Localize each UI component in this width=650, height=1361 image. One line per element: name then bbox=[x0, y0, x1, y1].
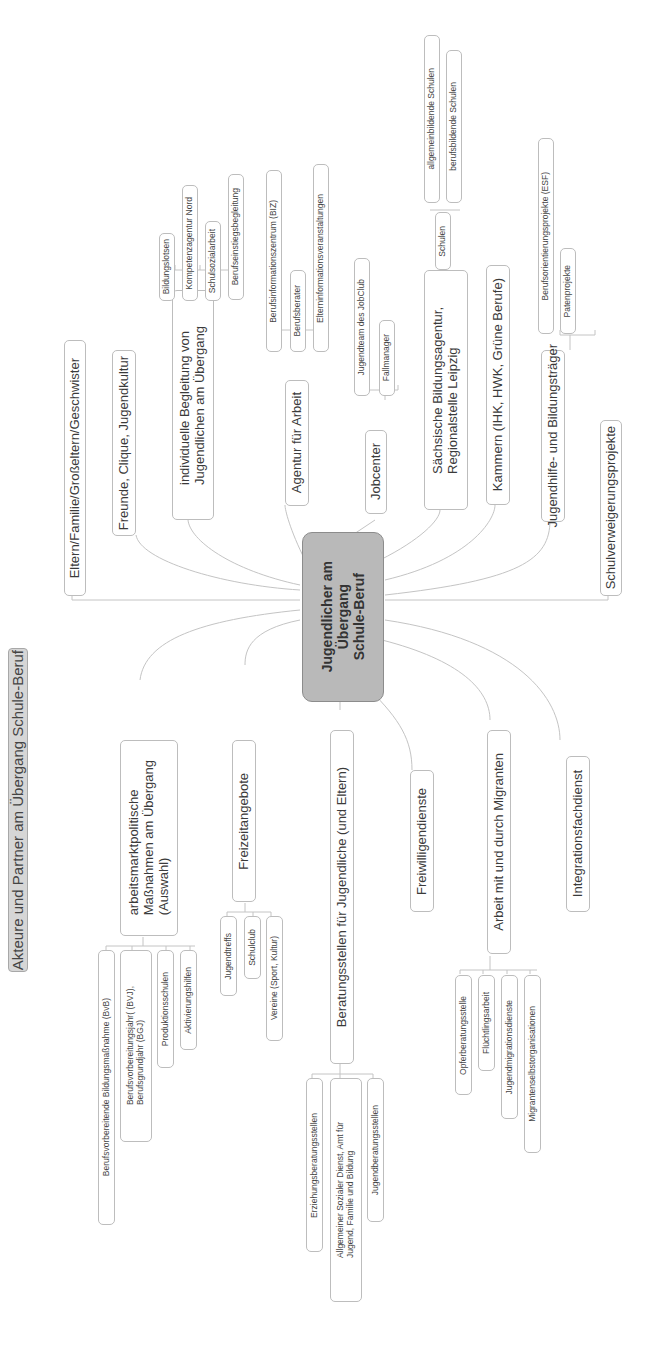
leaf-allgemeinbildende-schulen: allgemeinbildende Schulen bbox=[424, 35, 440, 203]
branch-saechsische-bildungsagentur: Sächsische Bildungsagentur, Regionalstel… bbox=[424, 270, 468, 510]
branch-freunde: Freunde, Clique, Jugendkultur bbox=[112, 350, 136, 536]
leaf-berufsorientierungsprojekte: Berufsorientierungsprojekte (ESF) bbox=[538, 138, 554, 334]
branch-jobcenter: Jobcenter bbox=[365, 430, 387, 514]
branch-arbeitsmarktpolitische-massnahmen: arbeitsmarktpolitische Maßnahmen am Über… bbox=[120, 740, 178, 936]
leaf-biz: Berufsinformationszentrum (BIZ) bbox=[266, 170, 282, 352]
leaf-vereine: Vereine (Sport, Kultur) bbox=[266, 916, 283, 1041]
branch-arbeit-mit-migranten: Arbeit mit und durch Migranten bbox=[487, 730, 511, 954]
leaf-migrantenselbstorganisationen: Migrantenselbstorganisationen bbox=[524, 975, 541, 1153]
leaf-patenprojekte: Patenprojekte bbox=[560, 248, 576, 334]
leaf-jugendtreffs: Jugendtreffs bbox=[220, 916, 237, 996]
leaf-bildungslotsen: Bildungslotsen bbox=[159, 233, 175, 301]
leaf-bvj-bgj: Berufsvorbereitungsjahr( (BVJ), Berufsgr… bbox=[120, 950, 152, 1142]
leaf-schulsozialarbeit: Schulsozialarbeit bbox=[205, 221, 221, 301]
leaf-erziehungsberatungsstellen: Erziehungsberatungsstellen bbox=[306, 1078, 323, 1252]
leaf-opferberatungsstelle: Opferberatungsstelle bbox=[455, 975, 472, 1095]
branch-freiwilligendienste: Freiwilligendienste bbox=[410, 770, 434, 912]
leaf-schulclub: Schulclub bbox=[244, 916, 261, 979]
branch-integrationsfachdienst: Integrationsfachdienst bbox=[566, 756, 590, 912]
leaf-fluechtlingsarbeit: Flüchtlingsarbeit bbox=[478, 975, 495, 1071]
center-node: Jugendlicher am Übergang Schule-Beruf bbox=[302, 532, 384, 702]
branch-schulverweigerungsprojekte: Schulverweigerungsprojekte bbox=[600, 420, 622, 596]
diagram-title: Akteure und Partner am Übergang Schule-B… bbox=[8, 648, 28, 972]
leaf-allgemeiner-sozialer-dienst: Allgemeiner Sozialer Dienst, Amt für Jug… bbox=[330, 1078, 362, 1302]
leaf-produktionsschulen: Produktionsschulen bbox=[157, 950, 174, 1068]
branch-individuelle-begleitung: individuelle Begleitung von Jugendlichen… bbox=[172, 290, 214, 520]
leaf-aktivierungshilfen: Aktivierungshilfen bbox=[180, 950, 197, 1050]
branch-jugendhilfe-bildungstraeger: Jugendhilfe- und Bildungsträger bbox=[541, 350, 565, 522]
branch-eltern: Eltern/Familie/Großeltern/Geschwister bbox=[64, 340, 86, 596]
leaf-elterninformationsveranstaltungen: Elterninformationsveranstaltungen bbox=[313, 164, 329, 352]
leaf-jugendberatungsstellen: Jugendberatungsstellen bbox=[367, 1078, 384, 1222]
leaf-jugendmigrationsdienste: Jugendmigrationsdienste bbox=[501, 975, 518, 1119]
branch-kammern: Kammern (IHK, HWK, Grüne Berufe) bbox=[486, 265, 510, 505]
branch-freizeitangebote: Freizeitangebote bbox=[232, 740, 256, 902]
leaf-fallmanager: Fallmanager bbox=[379, 320, 395, 396]
leaf-jugendteam-jobclub: Jugendteam des JobClub bbox=[354, 258, 370, 396]
node-schulen: Schulen bbox=[435, 212, 451, 270]
leaf-berufsberater: Berufsberater bbox=[290, 270, 306, 352]
mind-map-canvas: Akteure und Partner am Übergang Schule-B… bbox=[0, 0, 650, 1361]
leaf-kompetenzagentur: Kompetenzagentur Nord bbox=[182, 185, 198, 301]
branch-agentur-fuer-arbeit: Agentur für Arbeit bbox=[285, 380, 309, 506]
leaf-bvb: Berufsvorbereitende Bildungsmaßnahme (Bv… bbox=[98, 950, 115, 1225]
branch-beratungsstellen: Beratungsstellen für Jugendliche (und El… bbox=[330, 730, 354, 1064]
leaf-berufsbildende-schulen: berufsbildende Schulen bbox=[446, 50, 462, 203]
leaf-berufseinstiegsbegleitung: Berufseinstiegsbegleitung bbox=[228, 174, 244, 300]
